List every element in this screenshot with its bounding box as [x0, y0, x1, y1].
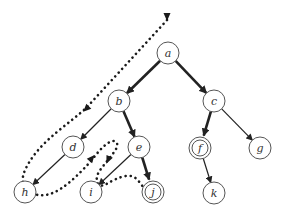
tree-diagram: abcdefghijk — [0, 0, 287, 218]
path-arrowhead-icon — [87, 153, 98, 164]
node-f: f — [189, 137, 211, 159]
node-label: h — [21, 186, 28, 199]
node-label: k — [211, 187, 218, 200]
node-a: a — [157, 42, 179, 64]
tree-edges — [33, 61, 252, 185]
edge-a-b — [127, 61, 160, 94]
node-h: h — [14, 181, 36, 203]
edge-b-e — [123, 111, 134, 137]
edge-c-g — [222, 109, 253, 140]
node-label: a — [165, 47, 172, 60]
node-label: g — [256, 142, 263, 155]
edge-c-f — [204, 112, 211, 136]
node-label: i — [89, 186, 93, 199]
node-i: i — [80, 181, 102, 203]
path-arrowhead-icon — [164, 13, 171, 21]
node-g: g — [249, 137, 271, 159]
traversal-path — [23, 13, 171, 195]
edge-a-c — [176, 61, 207, 93]
edge-d-h — [33, 155, 65, 185]
node-j: j — [142, 181, 164, 203]
tree-nodes: abcdefghijk — [14, 42, 271, 204]
node-e: e — [128, 136, 150, 158]
node-k: k — [203, 182, 225, 204]
node-label: e — [136, 141, 143, 154]
node-b: b — [108, 90, 130, 112]
edge-b-d — [81, 109, 111, 139]
edge-e-j — [142, 158, 149, 180]
node-d: d — [62, 136, 84, 158]
node-c: c — [203, 90, 225, 112]
node-label: c — [211, 95, 217, 108]
node-label: d — [69, 141, 76, 154]
edge-f-k — [203, 159, 210, 183]
path-arrowhead-icon — [81, 104, 92, 115]
node-label: b — [115, 95, 122, 108]
path-arrowhead-icon — [103, 155, 113, 165]
